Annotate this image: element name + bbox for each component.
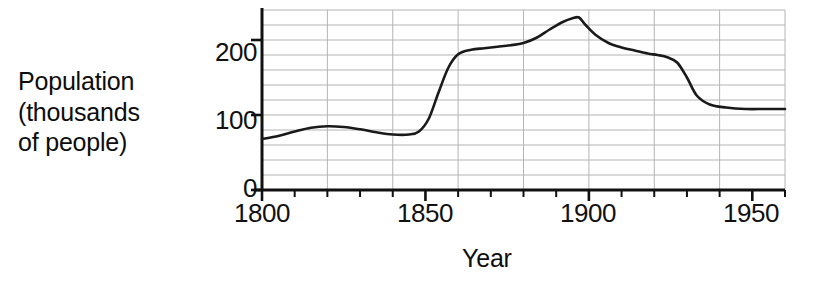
x-axis-ticks [262,190,785,201]
y-axis-ticks [251,40,262,190]
population-line-chart: Population (thousands of people) 200 100… [0,0,815,290]
plot-canvas [0,0,815,290]
axis-lines [254,8,785,190]
